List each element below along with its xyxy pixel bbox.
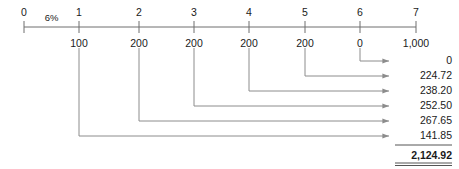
period-label-3: 3 xyxy=(191,7,197,18)
period-label-6: 6 xyxy=(357,7,363,18)
cash-flow-label-4: 200 xyxy=(240,38,258,49)
cash-flow-label-6: 0 xyxy=(357,38,363,49)
period-label-2: 2 xyxy=(136,7,142,18)
connector-to-267.65 xyxy=(139,48,389,121)
cash-flow-label-5: 200 xyxy=(296,38,314,49)
connector-to-0 xyxy=(360,48,389,61)
period-label-0: 0 xyxy=(21,7,27,18)
connector-to-238.20 xyxy=(249,48,389,91)
cash-flow-label-1: 100 xyxy=(70,38,88,49)
period-label-1: 1 xyxy=(76,7,82,18)
present-value-4: 267.65 xyxy=(392,115,452,126)
period-label-7: 7 xyxy=(413,7,419,18)
period-label-4: 4 xyxy=(246,7,252,18)
cash-flow-label-2: 200 xyxy=(130,38,148,49)
present-value-2: 238.20 xyxy=(392,85,452,96)
present-value-5: 141.85 xyxy=(392,130,452,141)
connector-to-141.85 xyxy=(79,48,389,136)
cash-flow-label-3: 200 xyxy=(185,38,203,49)
connector-to-224.72 xyxy=(305,48,389,76)
total-present-value: 2,124.92 xyxy=(392,150,452,161)
interest-rate-label: 6% xyxy=(45,13,59,23)
cash-flow-label-7: 1,000 xyxy=(403,38,429,49)
cash-flow-timeline-diagram xyxy=(0,0,459,169)
present-value-3: 252.50 xyxy=(392,100,452,111)
present-value-0: 0 xyxy=(392,55,452,66)
period-label-5: 5 xyxy=(302,7,308,18)
present-value-1: 224.72 xyxy=(392,70,452,81)
